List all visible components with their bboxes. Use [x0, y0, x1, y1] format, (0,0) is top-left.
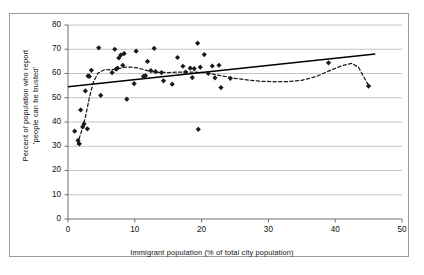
data-point-marker	[98, 93, 103, 98]
x-tick-label: 10	[123, 225, 147, 234]
data-point-marker	[196, 127, 201, 132]
data-point-marker	[190, 75, 195, 80]
data-point-marker	[85, 126, 90, 131]
data-point-marker	[72, 129, 77, 134]
data-point-marker	[212, 75, 217, 80]
data-point-marker	[112, 47, 117, 52]
y-tick-label: 40	[35, 117, 61, 126]
smoothed-trend-line	[77, 63, 368, 144]
data-point-marker	[202, 52, 207, 57]
y-tick-label: 0	[35, 214, 61, 223]
data-point-marker	[161, 78, 166, 83]
data-point-marker	[218, 85, 223, 90]
x-tick-label: 50	[390, 225, 414, 234]
data-point-marker	[326, 60, 331, 65]
data-point-marker	[180, 64, 185, 69]
x-tick-label: 30	[256, 225, 280, 234]
data-point-marker	[159, 70, 164, 75]
y-tick-label: 60	[35, 68, 61, 77]
data-point-marker	[83, 88, 88, 93]
data-point-marker	[175, 55, 180, 60]
data-point-group	[72, 41, 371, 147]
data-point-marker	[152, 46, 157, 51]
y-tick-label: 30	[35, 141, 61, 150]
data-point-marker	[89, 68, 94, 73]
data-point-marker	[170, 82, 175, 87]
x-tick-label: 20	[190, 225, 214, 234]
x-tick-label: 40	[323, 225, 347, 234]
y-tick-label: 50	[35, 93, 61, 102]
data-point-marker	[109, 70, 114, 75]
data-point-marker	[78, 107, 83, 112]
y-axis-title: Percent of population who report 'people…	[21, 40, 40, 172]
data-point-marker	[188, 66, 193, 71]
y-tick-label: 80	[35, 20, 61, 29]
x-axis-title: Immigrant population (% of total city po…	[0, 248, 424, 257]
data-point-marker	[145, 59, 150, 64]
data-point-marker	[216, 63, 221, 68]
data-point-marker	[210, 63, 215, 68]
y-tick-label: 70	[35, 44, 61, 53]
x-tick-label: 0	[56, 225, 80, 234]
data-point-marker	[195, 41, 200, 46]
y-tick-label: 10	[35, 190, 61, 199]
y-axis-title-line1: Percent of population who report	[21, 50, 30, 162]
y-tick-label: 20	[35, 165, 61, 174]
data-point-marker	[192, 66, 197, 71]
chart-container: Percent of population who report 'people…	[0, 0, 424, 275]
data-point-marker	[228, 76, 233, 81]
data-point-marker	[198, 65, 203, 70]
data-point-marker	[132, 81, 137, 86]
y-axis-title-line2: 'people can be trusted'	[30, 40, 40, 172]
data-point-marker	[366, 84, 371, 89]
data-point-marker	[148, 68, 153, 73]
